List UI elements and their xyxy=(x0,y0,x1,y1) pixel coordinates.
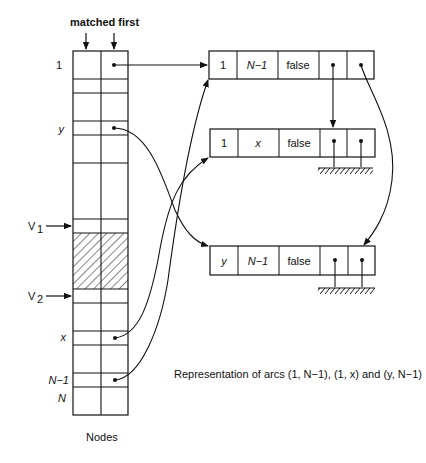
v2-label: V xyxy=(28,290,36,302)
row-label-1: 1 xyxy=(56,59,62,71)
record-2-field-target: x xyxy=(254,137,261,149)
nodes-caption: Nodes xyxy=(86,431,118,443)
record-1-field-matched: false xyxy=(286,59,309,71)
null-ground-icon xyxy=(318,168,373,174)
record-1-field-target: N−1 xyxy=(247,59,268,71)
row-label-x: x xyxy=(60,331,67,343)
record-1-field-node: 1 xyxy=(220,59,226,71)
null-ground-icon xyxy=(318,288,375,294)
record-2-field-node: 1 xyxy=(221,137,227,149)
pointer-arrows xyxy=(114,65,393,380)
row-label-y: y xyxy=(58,123,66,135)
matched-first-label: matched first xyxy=(70,16,139,28)
arc-record-3: y N−1 false xyxy=(210,246,375,294)
v1-subscript: 1 xyxy=(37,223,43,235)
arc-record-2: 1 x false xyxy=(210,129,375,174)
row-label-n: N xyxy=(58,392,66,404)
node-pointer-dots xyxy=(112,63,117,382)
arc-representation-diagram: matched first 1 y V 1 V xyxy=(0,0,426,463)
diagram-caption: Representation of arcs (1, N−1), (1, x) … xyxy=(174,368,422,380)
arc-record-1: 1 N−1 false xyxy=(209,51,374,79)
row-label-n-minus-1: N−1 xyxy=(49,374,70,386)
header-arrows xyxy=(86,33,114,49)
nodes-table xyxy=(73,51,128,415)
record-3-field-target: N−1 xyxy=(248,255,269,267)
v1-pointer: V 1 xyxy=(28,220,71,235)
record-3-field-matched: false xyxy=(287,255,310,267)
v2-subscript: 2 xyxy=(37,293,43,305)
v1-label: V xyxy=(28,220,36,232)
v2-pointer: V 2 xyxy=(28,290,71,305)
record-2-field-matched: false xyxy=(287,137,310,149)
